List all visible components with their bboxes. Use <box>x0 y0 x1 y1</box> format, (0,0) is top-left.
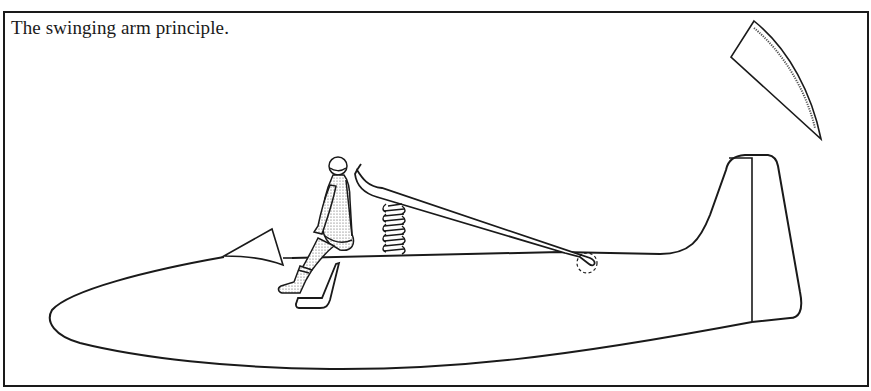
glider-illustration <box>0 0 871 391</box>
spring <box>383 204 405 254</box>
glider-fuselage <box>50 155 801 369</box>
tail-fin <box>729 158 752 322</box>
jettisoned-canopy <box>731 21 821 139</box>
windscreen <box>224 229 294 265</box>
pilot <box>278 157 353 293</box>
